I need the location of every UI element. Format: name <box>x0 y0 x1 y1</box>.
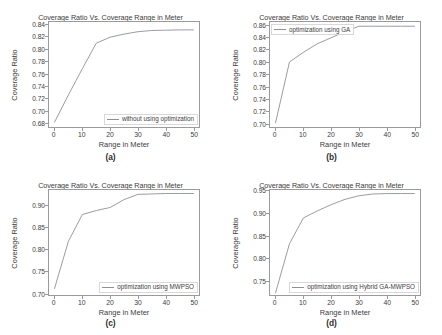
panel-b-ytick-label: 0.72 <box>240 108 266 115</box>
panel-a-ylabel: Coverage Ratio <box>8 21 20 128</box>
panel-c-xtick-mark <box>194 296 195 299</box>
panel-b-ytick-label: 0.70 <box>240 120 266 127</box>
panel-d: Coverage Ratio Vs. Coverage Range in Met… <box>221 168 442 335</box>
panel-a-xtick-label: 0 <box>52 131 56 138</box>
panel-b-xtick-label: 20 <box>327 131 335 138</box>
panel-d-xtick-mark <box>275 296 276 299</box>
panel-b-xtick-mark <box>331 128 332 131</box>
panel-b-data-line <box>276 26 415 123</box>
panel-a-ytick-label: 0.82 <box>19 33 45 40</box>
panel-b-xtick-mark <box>415 128 416 131</box>
panel-b-axes <box>269 21 421 128</box>
panel-c-legend-label: optimization using MWPSO <box>117 284 194 290</box>
panel-b-ytick-label: 0.76 <box>240 83 266 90</box>
panel-c-xtick-mark <box>110 296 111 299</box>
panel-b-xtick-mark <box>359 128 360 131</box>
panel-c-xtick-label: 30 <box>134 299 142 306</box>
legend-line-swatch-icon <box>292 287 304 288</box>
panel-d-data-line <box>276 194 415 293</box>
panel-b-ytick-label: 0.78 <box>240 71 266 78</box>
panel-d-caption: (d) <box>221 318 442 328</box>
panel-b-xtick-mark <box>387 128 388 131</box>
panel-a-caption: (a) <box>0 152 221 162</box>
panel-b-legend-label: optimization using GA <box>289 27 350 33</box>
panel-d-xtick-label: 10 <box>299 299 307 306</box>
panel-b-caption: (b) <box>221 152 442 162</box>
panel-a-ytick-label: 0.80 <box>19 45 45 52</box>
panel-c-curve-svg <box>49 190 199 295</box>
legend-line-swatch-icon <box>274 29 286 30</box>
panel-d-xlabel: Range in Meter <box>269 308 421 317</box>
panel-d-xtick-label: 40 <box>383 299 391 306</box>
panel-c-xtick-label: 10 <box>78 299 86 306</box>
panel-a-legend: without using optimization <box>104 114 198 125</box>
panel-c-plot: optimization using MWPSO <box>48 189 200 296</box>
panel-b-xtick-label: 10 <box>299 131 307 138</box>
panel-b-ytick-label: 0.86 <box>240 21 266 28</box>
panel-d-axes <box>269 189 421 296</box>
panel-a-ytick-label: 0.72 <box>19 95 45 102</box>
panel-b-ytick-label: 0.82 <box>240 46 266 53</box>
panel-a-ylabel-text: Coverage Ratio <box>10 49 19 100</box>
panel-a-ytick-label: 0.78 <box>19 58 45 65</box>
panel-c-ytick-label: 0.80 <box>19 246 45 253</box>
panel-b-ytick-label: 0.80 <box>240 58 266 65</box>
panel-d-xtick-mark <box>303 296 304 299</box>
panel-d-plot: optimization using Hybrid GA-MWPSO <box>269 189 421 296</box>
panel-c-xtick-mark <box>82 296 83 299</box>
panel-a-xtick-label: 10 <box>78 131 86 138</box>
panel-d-ylabel: Coverage Ratio <box>229 189 241 296</box>
panel-c-xlabel: Range in Meter <box>48 308 200 317</box>
panel-d-ylabel-text: Coverage Ratio <box>231 217 240 268</box>
panel-c-legend: optimization using MWPSO <box>99 282 198 293</box>
panel-b-xtick-label: 0 <box>273 131 277 138</box>
panel-b-legend: optimization using GA <box>271 24 354 35</box>
panel-b-xtick-mark <box>275 128 276 131</box>
panel-d-xtick-mark <box>331 296 332 299</box>
panel-b-xtick-mark <box>303 128 304 131</box>
panel-a-plot: without using optimization <box>48 21 200 128</box>
panel-c-xtick-label: 20 <box>106 299 114 306</box>
panel-c-caption: (c) <box>0 318 221 328</box>
panel-c-ylabel-text: Coverage Ratio <box>10 217 19 268</box>
panel-b-ytick-label: 0.84 <box>240 34 266 41</box>
panel-b-ylabel: Coverage Ratio <box>229 21 241 128</box>
panel-a-xlabel: Range in Meter <box>48 140 200 149</box>
legend-line-swatch-icon <box>107 119 119 120</box>
panel-a-xtick-label: 20 <box>106 131 114 138</box>
panel-b-xtick-label: 50 <box>412 131 420 138</box>
panel-a-data-line <box>55 30 194 122</box>
panel-c-ytick-label: 0.85 <box>19 223 45 230</box>
panel-a-xtick-label: 30 <box>134 131 142 138</box>
panel-a-ytick-label: 0.74 <box>19 82 45 89</box>
panel-a-axes <box>48 21 200 128</box>
panel-a-xtick-mark <box>110 128 111 131</box>
panel-b-ytick-label: 0.74 <box>240 95 266 102</box>
panel-a-xtick-mark <box>166 128 167 131</box>
panel-c-ytick-label: 0.70 <box>19 290 45 297</box>
panel-c-xtick-label: 0 <box>52 299 56 306</box>
panel-d-xtick-label: 0 <box>273 299 277 306</box>
panel-c-ylabel: Coverage Ratio <box>8 189 20 296</box>
panel-d-curve-svg <box>270 190 420 295</box>
panel-a-curve-svg <box>49 22 199 127</box>
panel-d-legend: optimization using Hybrid GA-MWPSO <box>289 282 419 293</box>
panel-c-xtick-mark <box>54 296 55 299</box>
panel-d-ytick-label: 0.85 <box>240 232 266 239</box>
panel-d-xtick-label: 20 <box>327 299 335 306</box>
panel-b-xtick-label: 30 <box>355 131 363 138</box>
panel-a-xtick-mark <box>138 128 139 131</box>
panel-c-xtick-label: 50 <box>191 299 199 306</box>
panel-b-curve-svg <box>270 22 420 127</box>
panel-a-ytick-label: 0.68 <box>19 120 45 127</box>
panel-c-axes <box>48 189 200 296</box>
panel-a-ytick-label: 0.76 <box>19 70 45 77</box>
panel-a-xtick-mark <box>82 128 83 131</box>
panel-d-ytick-label: 0.80 <box>240 255 266 262</box>
panel-d-ytick-label: 0.75 <box>240 278 266 285</box>
panel-d-xtick-mark <box>415 296 416 299</box>
panel-c-data-line <box>55 194 194 289</box>
panel-c-xtick-label: 40 <box>162 299 170 306</box>
panel-d-xtick-mark <box>387 296 388 299</box>
panel-c-ytick-label: 0.90 <box>19 201 45 208</box>
